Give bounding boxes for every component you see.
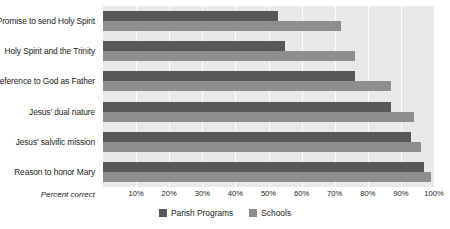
bar-group [103,127,434,157]
bar-chart: Promise to send Holy SpiritHoly Spirit a… [0,0,450,229]
bar [103,142,421,152]
category-label: Reason to honor Mary [0,157,99,187]
legend-label: Parish Programs [171,208,233,218]
legend-swatch-icon [159,209,167,217]
bars-layer [103,6,434,187]
bar [103,162,424,172]
legend-label: Schools [261,208,291,218]
bar [103,172,431,182]
x-tick-label: 80% [360,189,375,198]
bar [103,81,391,91]
bar [103,21,341,31]
bar-group [103,66,434,96]
x-tick-label: 10% [128,189,143,198]
category-label: Reference to God as Father [0,66,99,96]
bar [103,112,414,122]
bar-group [103,157,434,187]
x-tick-label: 40% [228,189,243,198]
x-axis-title: Percent correct [0,190,99,199]
bar [103,51,355,61]
x-tick-label: 50% [261,189,276,198]
bar [103,102,391,112]
legend-swatch-icon [249,209,257,217]
category-label: Jesus' dual nature [0,97,99,127]
legend-item[interactable]: Parish Programs [159,208,233,218]
bar-group [103,97,434,127]
bar [103,11,278,21]
bar [103,71,355,81]
x-tick-label: 70% [327,189,342,198]
plot-area [103,6,434,187]
legend-item[interactable]: Schools [249,208,291,218]
category-label: Jesus' salvific mission [0,127,99,157]
category-label: Holy Spirit and the Trinity [0,36,99,66]
bar-group [103,36,434,66]
category-label: Promise to send Holy Spirit [0,6,99,36]
x-tick-label: 90% [393,189,408,198]
chart-legend: Parish ProgramsSchools [0,208,450,218]
x-tick-label: 60% [294,189,309,198]
x-axis: 10%20%30%40%50%60%70%80%90%100% [103,189,434,203]
bar-group [103,6,434,36]
x-tick-label: 20% [162,189,177,198]
x-tick-label: 30% [195,189,210,198]
category-axis: Promise to send Holy SpiritHoly Spirit a… [0,6,99,187]
bar [103,132,411,142]
gridline [434,6,435,187]
bar [103,41,285,51]
x-tick-label: 100% [424,189,443,198]
